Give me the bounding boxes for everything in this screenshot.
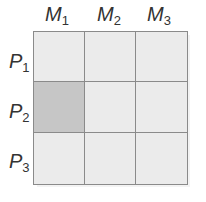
row-label-p3: P3 bbox=[9, 151, 30, 178]
cell-p3-m3 bbox=[136, 133, 187, 184]
cell-p1-m3 bbox=[136, 32, 187, 82]
column-label-m2: M2 bbox=[97, 4, 121, 31]
cell-p3-m2 bbox=[85, 133, 136, 184]
column-label-m3: M3 bbox=[147, 4, 171, 31]
cell-p2-m2 bbox=[85, 82, 136, 133]
cell-p3-m1 bbox=[34, 133, 85, 184]
row-label-p1: P1 bbox=[9, 51, 30, 78]
cell-p2-m1-highlighted bbox=[34, 82, 85, 133]
column-label-m1: M1 bbox=[45, 4, 69, 31]
matrix-grid bbox=[33, 31, 188, 185]
cell-p2-m3 bbox=[136, 82, 187, 133]
cell-p1-m2 bbox=[85, 32, 136, 82]
cell-p1-m1 bbox=[34, 32, 85, 82]
row-label-p2: P2 bbox=[9, 101, 30, 128]
